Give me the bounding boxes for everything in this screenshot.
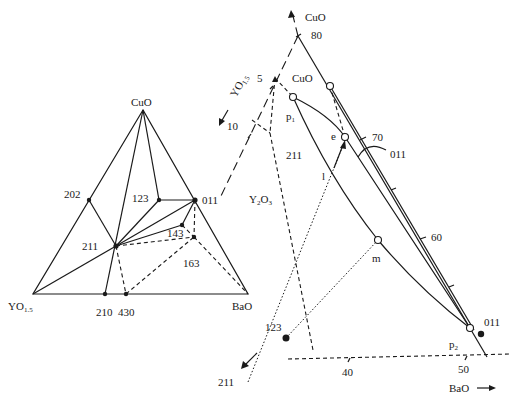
label-m: m — [372, 252, 381, 264]
vertex-yo-label: YO1.5 — [8, 300, 33, 314]
point-163 — [192, 235, 196, 239]
label-123: 123 — [132, 192, 149, 204]
label-011-point: 011 — [484, 316, 500, 328]
label-l: l — [322, 170, 325, 182]
point-e — [342, 134, 349, 141]
tie-143-163 — [182, 225, 194, 237]
field-y2o3-label: Y2O3 — [249, 193, 272, 207]
label-123-point: 123 — [265, 321, 282, 333]
tick-80-label: 80 — [311, 29, 323, 41]
line-211-to-e — [248, 143, 344, 382]
yo-axis-label: YO1.5 — [227, 71, 252, 100]
label-210: 210 — [96, 306, 113, 318]
y2o3-211-boundary — [270, 133, 313, 350]
cuo-bao-edge — [298, 36, 487, 357]
phase-diagram-canvas: CuO YO1.5 BaO 202 123 011 211 143 163 21… — [0, 0, 519, 404]
bao-axis-label: BaO — [449, 382, 469, 394]
vertex-bao-label: BaO — [232, 300, 252, 312]
label-143: 143 — [167, 227, 184, 239]
point-123-solid — [283, 335, 290, 342]
point-011 — [192, 197, 197, 202]
cuo-axis-extension — [293, 16, 298, 36]
cuo-axis-label: CuO — [305, 11, 326, 23]
cuo-arrow-icon — [288, 10, 295, 18]
label-202: 202 — [64, 188, 81, 200]
double-line-cuo-p2 — [330, 86, 474, 330]
field-211-label: 211 — [286, 149, 302, 161]
point-202 — [87, 198, 91, 202]
arrow-e-icon — [340, 140, 346, 149]
point-p1 — [290, 94, 297, 101]
tick-40 — [348, 358, 350, 362]
tick-50-label: 50 — [458, 363, 470, 375]
point-cuo-circle — [327, 83, 334, 90]
label-163: 163 — [183, 257, 200, 269]
bao-axis — [288, 354, 512, 359]
point-210 — [103, 292, 107, 296]
point-430 — [124, 292, 128, 296]
field-cuo-label: CuO — [292, 72, 313, 84]
label-e: e — [331, 130, 336, 142]
line-123-to-m — [286, 240, 378, 338]
label-p1: p1 — [286, 110, 296, 124]
tick-60 — [420, 237, 426, 239]
field-011-label: 011 — [390, 148, 406, 160]
tick-5-label: 5 — [257, 72, 263, 84]
tick-60-label: 60 — [431, 231, 443, 243]
point-211 — [113, 243, 118, 248]
point-m — [375, 237, 382, 244]
tick-40-label: 40 — [342, 366, 354, 378]
vertex-cuo-label: CuO — [131, 96, 152, 108]
tick-50 — [465, 356, 467, 360]
point-123 — [157, 198, 161, 202]
tick-70-label: 70 — [372, 131, 384, 143]
point-p2 — [467, 325, 474, 332]
arrow-l-to-e — [334, 145, 343, 168]
ternary-diagram: CuO YO1.5 BaO 202 123 011 211 143 163 21… — [8, 96, 252, 318]
tick-minor-55 — [449, 285, 454, 287]
liquidus-projection: CuO 80 70 60 5 10 YO1.5 — [218, 10, 512, 394]
tie-211-430 — [116, 246, 126, 294]
tie-011-163 — [194, 200, 195, 237]
arrow-211-label: 211 — [218, 376, 234, 388]
leader-011 — [358, 146, 386, 157]
label-430: 430 — [118, 306, 135, 318]
label-p2: p2 — [449, 338, 459, 352]
tie-yo-211 — [33, 246, 116, 294]
bao-arrow-icon — [489, 385, 496, 391]
point-011-solid — [478, 331, 484, 337]
label-211: 211 — [82, 240, 98, 252]
tick-10-label: 10 — [227, 120, 239, 132]
label-011: 011 — [202, 194, 218, 206]
